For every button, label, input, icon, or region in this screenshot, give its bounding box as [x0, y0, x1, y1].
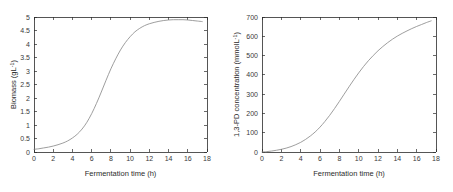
data-curve	[262, 21, 431, 152]
x-tick-label: 10	[126, 155, 134, 162]
x-tick-label: 8	[337, 155, 341, 162]
y-axis-title: Biomass (gL-1)	[9, 60, 18, 109]
x-tick-label: 16	[184, 155, 192, 162]
x-tick-label: 4	[298, 155, 302, 162]
y-tick-label: 500	[246, 52, 258, 59]
x-tick-label: 8	[109, 155, 113, 162]
x-axis-title: Fermentation time (h)	[85, 169, 157, 178]
y-tick-label: 0	[254, 149, 258, 156]
y-axis-title: 1,3-PD concentration (mmolL-1)	[231, 32, 240, 137]
biomass-plot: 02468101214161800.511.522.533.544.55Ferm…	[0, 0, 227, 192]
x-tick-label: 6	[90, 155, 94, 162]
x-tick-label: 12	[145, 155, 153, 162]
y-tick-label: 200	[246, 110, 258, 117]
figure-container: 02468101214161800.511.522.533.544.55Ferm…	[0, 0, 453, 192]
pd-plot: 0246810121416180100200300400500600700Fer…	[227, 0, 453, 192]
x-tick-label: 18	[432, 155, 440, 162]
x-tick-label: 18	[203, 155, 211, 162]
plot-frame	[34, 17, 207, 152]
chart-panel-pd: 0246810121416180100200300400500600700Fer…	[227, 0, 453, 192]
x-tick-label: 0	[32, 155, 36, 162]
x-tick-label: 12	[374, 155, 382, 162]
y-tick-label: 600	[246, 33, 258, 40]
y-tick-label: 3	[26, 68, 30, 75]
y-tick-label: 0.5	[20, 135, 30, 142]
y-tick-label: 4	[26, 41, 30, 48]
y-tick-label: 100	[246, 129, 258, 136]
y-tick-label: 2	[26, 95, 30, 102]
y-tick-label: 5	[26, 14, 30, 21]
y-tick-label: 1	[26, 122, 30, 129]
x-tick-label: 10	[354, 155, 362, 162]
y-tick-label: 0	[26, 149, 30, 156]
plot-frame	[262, 17, 436, 152]
x-tick-label: 2	[279, 155, 283, 162]
x-tick-label: 4	[70, 155, 74, 162]
x-tick-label: 6	[318, 155, 322, 162]
y-tick-label: 300	[246, 91, 258, 98]
y-tick-label: 700	[246, 14, 258, 21]
y-tick-label: 2.5	[20, 81, 30, 88]
y-tick-label: 4.5	[20, 27, 30, 34]
x-tick-label: 2	[51, 155, 55, 162]
y-tick-label: 400	[246, 71, 258, 78]
x-tick-label: 16	[412, 155, 420, 162]
y-tick-label: 3.5	[20, 54, 30, 61]
x-tick-label: 14	[393, 155, 401, 162]
data-curve	[34, 20, 202, 150]
chart-panel-biomass: 02468101214161800.511.522.533.544.55Ferm…	[0, 0, 227, 192]
x-axis-title: Fermentation time (h)	[313, 169, 385, 178]
x-tick-label: 0	[260, 155, 264, 162]
x-tick-label: 14	[165, 155, 173, 162]
y-tick-label: 1.5	[20, 108, 30, 115]
